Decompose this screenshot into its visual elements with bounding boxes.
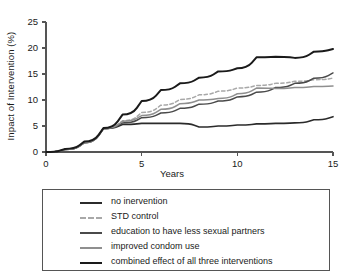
legend-list: no inerventionSTD controleducation to ha… bbox=[43, 190, 329, 269]
y-axis-label-container: Inpact of Intervention (%) bbox=[2, 18, 18, 153]
y-tick-label: 5 bbox=[16, 120, 38, 131]
axes bbox=[42, 22, 333, 156]
series-line-4 bbox=[46, 49, 333, 152]
legend-label: improved condom use bbox=[111, 241, 200, 252]
chart-plot-area: Inpact of Intervention (%) 0510152025 05… bbox=[0, 0, 344, 188]
data-series-group bbox=[46, 49, 333, 152]
legend-item[interactable]: education to have less sexual partners bbox=[43, 224, 329, 239]
y-tick-label: 15 bbox=[16, 68, 38, 79]
legend-item[interactable]: improved condom use bbox=[43, 239, 329, 254]
legend-item[interactable]: combined effect of all three interventio… bbox=[43, 254, 329, 269]
y-tick-label: 10 bbox=[16, 94, 38, 105]
legend-label: combined effect of all three interventio… bbox=[111, 256, 272, 267]
y-tick-label: 0 bbox=[16, 146, 38, 157]
y-tick-label: 20 bbox=[16, 42, 38, 53]
figure: Inpact of Intervention (%) 0510152025 05… bbox=[0, 0, 344, 280]
series-line-0 bbox=[46, 117, 333, 152]
legend-label: no inervention bbox=[111, 196, 168, 207]
legend: no inerventionSTD controleducation to ha… bbox=[42, 189, 330, 271]
x-axis-label: Years bbox=[0, 168, 344, 179]
legend-item[interactable]: STD control bbox=[43, 209, 329, 224]
y-axis-label: Inpact of Intervention (%) bbox=[5, 31, 16, 140]
y-tick-label: 25 bbox=[16, 16, 38, 27]
legend-item[interactable]: no inervention bbox=[43, 194, 329, 209]
legend-label: STD control bbox=[111, 211, 159, 222]
legend-label: education to have less sexual partners bbox=[111, 226, 265, 237]
